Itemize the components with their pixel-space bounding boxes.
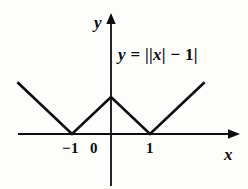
x-tick-label-zero: 0 — [90, 141, 98, 156]
y-axis-label: y — [94, 14, 102, 31]
equation-abs-close: | − 1| — [162, 45, 198, 64]
equation-abs-open: || — [145, 45, 153, 64]
plot-canvas — [0, 0, 248, 189]
x-axis-label: x — [224, 146, 233, 163]
equation-lhs: y — [118, 45, 126, 64]
function-graph-figure: y x −1 0 1 y = ||x| − 1| — [0, 0, 248, 189]
equation-variable: x — [153, 45, 162, 64]
x-tick-label-one: 1 — [146, 141, 154, 156]
equation-equals: = — [126, 45, 145, 64]
equation-annotation: y = ||x| − 1| — [118, 46, 198, 63]
x-axis — [18, 129, 240, 138]
x-tick-label-neg-one: −1 — [62, 141, 79, 156]
y-axis-arrowhead — [106, 13, 115, 24]
x-axis-arrowhead — [228, 129, 240, 138]
